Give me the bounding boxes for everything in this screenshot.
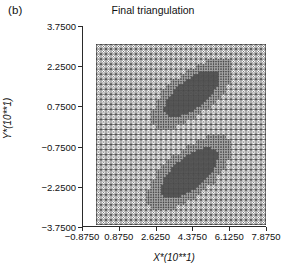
x-axis-spine [82, 226, 266, 227]
y-axis-spine [82, 26, 83, 227]
plot-title: Final triangulation [78, 4, 228, 16]
y-tick-label: 3.7500 [47, 21, 76, 32]
y-tick-mark [78, 187, 82, 188]
y-tick-mark [78, 66, 82, 67]
y-tick-mark [78, 147, 82, 148]
panel-label: (b) [8, 4, 22, 16]
x-tick-label: 4.3750 [178, 231, 207, 242]
y-axis-label: Y*(10**1) [2, 79, 13, 159]
x-tick-label: 2.6250 [141, 231, 170, 242]
triangulation-mesh [96, 44, 266, 225]
x-tick-label: −0.8750 [65, 231, 100, 242]
y-tick-label: 2.2500 [47, 61, 76, 72]
y-tick-mark [78, 26, 82, 27]
x-axis-label: X*(10**1) [82, 252, 266, 263]
mesh-svg [96, 44, 266, 225]
y-tick-label: −2.2500 [41, 181, 76, 192]
x-tick-label: 0.8750 [104, 231, 133, 242]
y-tick-label: −0.7500 [41, 141, 76, 152]
x-tick-label: 7.8750 [251, 231, 280, 242]
figure-panel: (b) Final triangulation 3.75002.25000.75… [0, 0, 304, 273]
y-tick-label: 0.7500 [47, 101, 76, 112]
x-tick-label: 6.1250 [215, 231, 244, 242]
y-tick-mark [78, 106, 82, 107]
